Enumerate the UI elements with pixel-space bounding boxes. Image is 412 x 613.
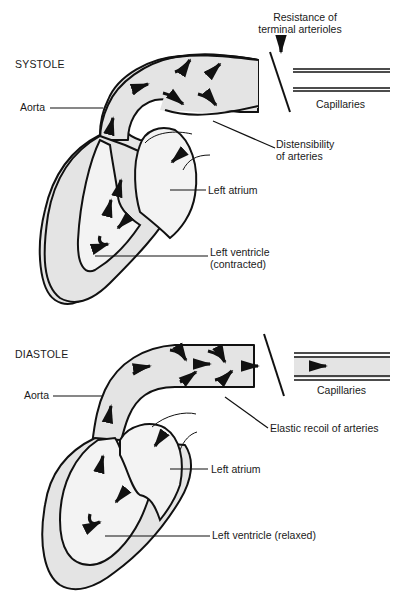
diastole-capillaries-label: Capillaries	[317, 384, 366, 396]
distensibility-label-line2: of arteries	[276, 150, 323, 162]
systole-capillaries	[293, 69, 390, 91]
diastole-aorta-label: Aorta	[24, 389, 49, 401]
systole-title: SYSTOLE	[15, 58, 65, 70]
diastole-capillaries	[294, 353, 390, 380]
systole-break-slash	[270, 52, 290, 112]
systole-capillaries-label: Capillaries	[316, 98, 365, 110]
diastole-left-atrium-label: Left atrium	[211, 463, 261, 475]
diastole-panel: DIASTOLE	[15, 334, 390, 589]
left-ventricle-relaxed-label: Left ventricle (relaxed)	[212, 529, 316, 541]
distensibility-label-line1: Distensibility	[276, 138, 335, 150]
resistance-label-line1: Resistance of	[273, 11, 337, 23]
systole-panel: SYSTOLE	[15, 11, 390, 304]
resistance-label-line2: terminal arterioles	[258, 23, 341, 35]
systole-aorta-label: Aorta	[20, 101, 45, 113]
diastole-title: DIASTOLE	[15, 348, 68, 360]
diastole-break-slash	[264, 334, 284, 396]
left-ventricle-contracted-line1: Left ventricle	[210, 246, 270, 258]
diastole-aorta	[92, 345, 254, 445]
left-ventricle-contracted-line2: (contracted)	[210, 258, 266, 270]
elastic-recoil-label: Elastic recoil of arteries	[270, 422, 379, 434]
systole-left-atrium-label: Left atrium	[208, 184, 258, 196]
cardiac-cycle-diagram: SYSTOLE	[0, 0, 412, 613]
